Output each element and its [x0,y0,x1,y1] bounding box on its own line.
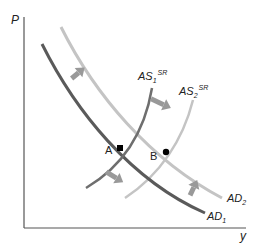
point-a-marker [117,145,123,151]
ad-shift-arrow-upper [68,63,89,83]
as2-curve [125,100,193,198]
point-b-marker [163,149,169,155]
ad1-label: AD1 [206,210,226,224]
as1-label: AS1SR [137,69,167,84]
svg-text:AS1SR: AS1SR [137,69,167,84]
as-shift-arrow-lower [103,167,126,188]
svg-text:AD1: AD1 [206,210,226,224]
as-shift-arrow-upper [148,93,173,113]
y-axis-label: P [11,13,19,27]
ad-as-diagram: P y A B AS1SR [0,0,266,248]
svg-text:AD2: AD2 [226,192,246,206]
as2-label: AS2SR [178,84,208,99]
ad1-curve [42,44,205,213]
point-a-label: A [105,144,113,156]
ad2-label: AD2 [226,192,246,206]
point-b-label: B [150,150,157,162]
svg-text:AS2SR: AS2SR [178,84,208,99]
x-axis-label: y [239,229,247,243]
